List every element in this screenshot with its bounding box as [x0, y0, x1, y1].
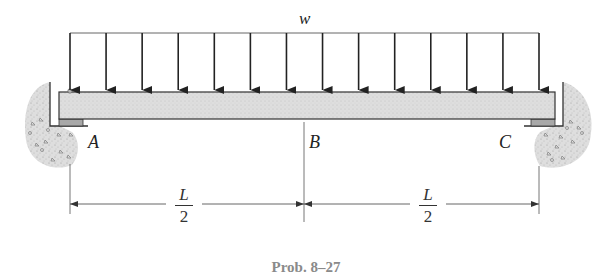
dimension-denominator: 2	[174, 208, 194, 225]
support-label-a: A	[88, 133, 99, 151]
dimension-numerator: L	[174, 186, 194, 203]
distributed-load	[70, 33, 539, 90]
figure-caption: Prob. 8–27	[0, 259, 612, 276]
support-label-c: C	[499, 133, 511, 151]
point-label-b: B	[309, 133, 320, 151]
load-label-w: w	[299, 10, 310, 27]
dimension-label-right: L 2	[418, 186, 438, 225]
fraction-bar	[419, 205, 437, 206]
dimension-numerator: L	[418, 186, 438, 203]
fraction-bar	[175, 205, 193, 206]
dimension-denominator: 2	[418, 208, 438, 225]
dimension-label-left: L 2	[174, 186, 194, 225]
beam	[59, 92, 555, 119]
beam-diagram: w A B C L 2 L 2 Prob. 8–27	[0, 0, 612, 279]
